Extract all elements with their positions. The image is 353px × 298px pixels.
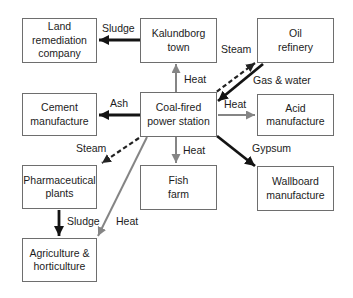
flow-label-heat-up: Heat	[184, 73, 206, 85]
flow-label-sludge-top: Sludge	[102, 22, 135, 34]
node-pharmaceutical-plants: Pharmaceutical plants	[22, 165, 97, 209]
flow-label-heat-down: Heat	[183, 144, 205, 156]
node-fish-farm: Fish farm	[140, 165, 217, 210]
node-land-remediation-company: Land remediation company	[22, 18, 97, 63]
node-wallboard-manufacture: Wallboard manufacture	[257, 166, 334, 211]
flow-label-steam-refinery: Steam	[221, 43, 251, 55]
arrow-steam-station-to-refinery	[211, 63, 255, 96]
flow-label-heat-diagonal: Heat	[116, 215, 138, 227]
node-oil-refinery: Oil refinery	[257, 18, 334, 63]
node-kalundborg-town: Kalundborg town	[140, 18, 217, 63]
flow-label-steam-pharma: Steam	[76, 142, 106, 154]
flow-label-gas-water: Gas & water	[253, 74, 311, 86]
flow-label-ash: Ash	[110, 97, 128, 109]
flow-label-heat-right: Heat	[224, 98, 246, 110]
arrow-gypsum-station-to-wallboard	[217, 136, 255, 166]
node-cement-manufacture: Cement manufacture	[22, 93, 97, 136]
flow-label-sludge-bottom: Sludge	[67, 215, 100, 227]
node-coal-fired-power-station: Coal-fired power station	[140, 92, 217, 137]
flow-label-gypsum: Gypsum	[252, 142, 291, 154]
kalundborg-symbiosis-diagram: Land remediation company Kalundborg town…	[0, 0, 353, 298]
node-acid-manufacture: Acid manufacture	[257, 94, 334, 136]
arrow-steam-station-to-pharma	[102, 138, 139, 163]
node-agriculture-horticulture: Agriculture & horticulture	[22, 238, 97, 282]
